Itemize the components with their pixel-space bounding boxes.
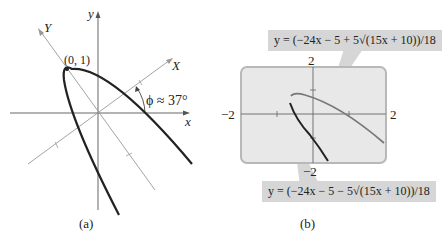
tick-top-label: 2 (308, 53, 315, 69)
caption-a: (a) (79, 216, 93, 232)
tick-bottom-label: −2 (303, 164, 317, 180)
vertex-label: (0, 1) (64, 53, 90, 68)
tick-right-label: 2 (390, 107, 397, 123)
X-axis-label: X (172, 58, 180, 74)
tick-left-label: −2 (221, 107, 235, 123)
lower-equation: y = (−24x − 5 − 5√(15x + 10))/18 (262, 181, 436, 202)
x-axis-label: x (185, 114, 191, 130)
y-axis-label: y (88, 6, 94, 22)
y-axis-arrow-icon (96, 11, 101, 18)
angle-label: ϕ ≈ 37° (146, 93, 188, 109)
upper-equation: y = (−24x − 5 + 5√(15x + 10))/18 (268, 30, 442, 51)
calculator-screen (241, 67, 386, 163)
caption-b: (b) (300, 216, 315, 232)
Y-axis-label: Y (44, 20, 51, 36)
